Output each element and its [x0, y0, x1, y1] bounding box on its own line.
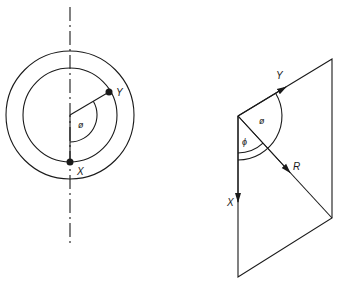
parallelogram-outline — [238, 59, 332, 277]
label-theta: ø — [259, 116, 265, 126]
vector-parallelogram: Y X R ø ϕ — [226, 59, 332, 277]
label-x: X — [76, 166, 84, 177]
radius-to-y — [70, 92, 109, 115]
rotor-figure: Y X ø — [6, 7, 134, 243]
vector-y-arrow — [238, 87, 286, 116]
label-vector-r: R — [293, 161, 300, 172]
point-x-dot — [67, 159, 74, 166]
label-y: Y — [116, 87, 124, 98]
label-angle: ø — [78, 120, 84, 130]
diagram-canvas: Y X ø Y X R ø ϕ — [0, 0, 342, 282]
label-phi: ϕ — [242, 137, 247, 147]
label-vector-y: Y — [276, 70, 284, 81]
point-y-dot — [106, 89, 113, 96]
label-vector-x: X — [226, 197, 234, 208]
